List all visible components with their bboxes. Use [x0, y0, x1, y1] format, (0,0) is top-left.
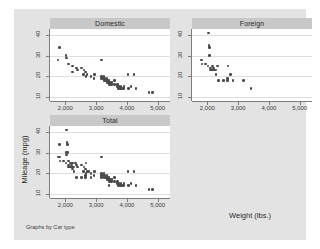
- y-tick-label: 10: [35, 89, 41, 103]
- y-tick-mark: [188, 56, 191, 57]
- y-tick-mark: [188, 76, 191, 77]
- data-point: [215, 69, 218, 72]
- plot-area-foreign: [192, 29, 312, 101]
- data-point: [232, 79, 235, 82]
- data-point: [80, 176, 83, 179]
- plot-area-domestic: [50, 29, 170, 101]
- y-tick-label: 10: [35, 186, 41, 200]
- data-point: [93, 73, 96, 76]
- data-point: [217, 79, 220, 82]
- data-point: [227, 65, 230, 68]
- gridline-y: [50, 194, 170, 195]
- y-tick-mark: [46, 56, 49, 57]
- gridline-y: [192, 35, 312, 36]
- y-tick-label: 20: [35, 68, 41, 82]
- y-tick-label: 30: [35, 145, 41, 159]
- data-point: [58, 46, 61, 49]
- data-point: [58, 156, 61, 159]
- gridline-y: [192, 76, 312, 77]
- data-point: [133, 170, 136, 173]
- panel-title-domestic: Domestic: [50, 18, 170, 29]
- gridline-y: [50, 35, 170, 36]
- y-axis-line: [49, 29, 50, 101]
- data-point: [130, 182, 133, 185]
- data-point: [100, 176, 103, 179]
- data-point: [122, 184, 125, 187]
- x-axis-title: Weight (lbs.): [170, 211, 320, 220]
- data-point: [127, 170, 130, 173]
- y-tick-label: 30: [35, 48, 41, 62]
- y-axis-title: Mileage (mpg): [20, 64, 29, 184]
- y-tick-mark: [46, 35, 49, 36]
- x-tick-label: 5,000: [143, 105, 173, 111]
- data-point: [93, 170, 96, 173]
- data-point: [67, 63, 70, 66]
- data-point: [100, 156, 103, 159]
- data-point: [135, 87, 138, 90]
- y-tick-mark: [188, 97, 191, 98]
- y-tick-label: 20: [35, 165, 41, 179]
- data-point: [57, 59, 60, 62]
- data-point: [93, 174, 96, 177]
- gridline-y: [50, 56, 170, 57]
- data-point: [135, 184, 138, 187]
- data-point: [208, 46, 211, 49]
- panel-total: Total: [50, 115, 170, 198]
- x-tick-label: 2,000: [192, 105, 222, 111]
- data-point: [87, 170, 90, 173]
- data-point: [229, 73, 232, 76]
- data-point: [222, 79, 225, 82]
- x-tick-label: 5,000: [285, 105, 315, 111]
- data-point: [200, 59, 203, 62]
- data-point: [250, 87, 253, 90]
- x-tick-label: 4,000: [112, 202, 142, 208]
- x-axis-line: [50, 101, 170, 102]
- data-point: [113, 176, 116, 179]
- data-point: [226, 79, 229, 82]
- data-point: [58, 143, 61, 146]
- data-point: [130, 85, 133, 88]
- data-point: [113, 79, 116, 82]
- data-point: [151, 91, 154, 94]
- y-axis-line: [49, 126, 50, 198]
- y-tick-label: 20: [177, 68, 183, 82]
- y-tick-mark: [46, 97, 49, 98]
- data-point: [90, 75, 93, 78]
- x-tick-label: 3,000: [223, 105, 253, 111]
- y-tick-label: 40: [35, 27, 41, 41]
- data-point: [66, 143, 69, 146]
- plot-area-total: [50, 126, 170, 198]
- x-tick-label: 2,000: [50, 105, 80, 111]
- data-point: [133, 73, 136, 76]
- data-point: [73, 170, 76, 173]
- panel-domestic: Domestic: [50, 18, 170, 101]
- y-tick-label: 40: [177, 27, 183, 41]
- x-axis-line: [50, 198, 170, 199]
- y-axis-line: [191, 29, 192, 101]
- panel-foreign: Foreign: [192, 18, 312, 101]
- x-tick-label: 2,000: [50, 202, 80, 208]
- y-tick-mark: [46, 153, 49, 154]
- data-point: [76, 166, 79, 169]
- data-point: [122, 87, 125, 90]
- x-tick-label: 4,000: [254, 105, 284, 111]
- y-tick-label: 30: [177, 48, 183, 62]
- x-tick-label: 5,000: [143, 202, 173, 208]
- y-tick-label: 10: [177, 89, 183, 103]
- y-tick-mark: [46, 173, 49, 174]
- y-tick-label: 40: [35, 124, 41, 138]
- data-point: [71, 71, 74, 74]
- data-point: [66, 151, 69, 154]
- data-point: [75, 176, 78, 179]
- y-tick-mark: [46, 132, 49, 133]
- data-point: [84, 176, 87, 179]
- graph-canvas: Mileage (mpg) Weight (lbs.) Graphs by Ca…: [14, 9, 306, 240]
- data-point: [148, 91, 151, 94]
- data-point: [90, 172, 93, 175]
- data-point: [71, 65, 74, 68]
- data-point: [216, 65, 219, 68]
- x-axis-line: [192, 101, 312, 102]
- data-point: [86, 73, 89, 76]
- data-point: [93, 77, 96, 80]
- panel-title-foreign: Foreign: [192, 18, 312, 29]
